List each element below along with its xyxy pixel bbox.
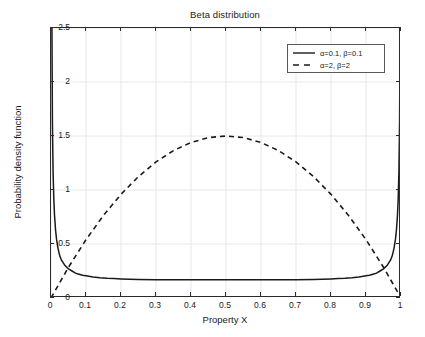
x-tick-label: 0	[30, 300, 70, 310]
x-tick-mark	[330, 292, 331, 296]
x-tick-mark-top	[330, 27, 331, 31]
x-tick-label: 0.7	[275, 300, 315, 310]
y-tick-mark	[50, 81, 54, 82]
x-tick-label: 0.8	[310, 300, 350, 310]
legend-line-dashed-icon	[292, 60, 316, 70]
x-tick-mark	[295, 292, 296, 296]
x-tick-mark-top	[50, 27, 51, 31]
y-tick-mark	[50, 243, 54, 244]
y-tick-mark	[50, 135, 54, 136]
chart-title: Beta distribution	[50, 9, 400, 20]
x-tick-mark-top	[295, 27, 296, 31]
y-tick-mark	[50, 297, 54, 298]
y-tick-mark-right	[396, 243, 400, 244]
x-tick-mark-top	[120, 27, 121, 31]
x-tick-mark	[120, 292, 121, 296]
x-tick-mark-top	[85, 27, 86, 31]
legend-item-1[interactable]: α=2, β=2	[288, 59, 384, 71]
legend-label-1: α=2, β=2	[316, 61, 350, 70]
y-axis-label: Probability density function	[12, 27, 26, 297]
x-tick-label: 0.4	[170, 300, 210, 310]
y-tick-mark-right	[396, 135, 400, 136]
x-tick-mark-top	[365, 27, 366, 31]
x-tick-mark	[190, 292, 191, 296]
legend-label-0: α=0.1, β=0.1	[316, 49, 362, 58]
y-tick-mark	[50, 189, 54, 190]
y-tick-mark-right	[396, 297, 400, 298]
series-curve-1	[51, 136, 400, 297]
x-tick-label: 0.5	[205, 300, 245, 310]
x-axis-label: Property X	[50, 314, 400, 325]
x-tick-mark	[155, 292, 156, 296]
legend-line-solid-icon	[292, 48, 316, 58]
x-tick-mark	[260, 292, 261, 296]
y-tick-mark-right	[396, 81, 400, 82]
legend-item-0[interactable]: α=0.1, β=0.1	[288, 47, 384, 59]
x-tick-mark-top	[225, 27, 226, 31]
x-tick-mark	[400, 292, 401, 296]
beta-distribution-chart: Beta distribution 00.511.522.500.10.20.3…	[0, 0, 425, 337]
x-tick-label: 0.6	[240, 300, 280, 310]
x-tick-mark-top	[190, 27, 191, 31]
x-tick-mark-top	[260, 27, 261, 31]
x-tick-label: 0.1	[65, 300, 105, 310]
x-tick-label: 0.9	[345, 300, 385, 310]
x-tick-label: 0.3	[135, 300, 175, 310]
x-tick-mark	[225, 292, 226, 296]
x-tick-label: 1	[380, 300, 420, 310]
y-tick-mark-right	[396, 189, 400, 190]
x-tick-mark	[50, 292, 51, 296]
x-tick-mark-top	[155, 27, 156, 31]
x-tick-mark-top	[400, 27, 401, 31]
legend[interactable]: α=0.1, β=0.1 α=2, β=2	[287, 44, 385, 73]
x-tick-mark	[85, 292, 86, 296]
x-tick-mark	[365, 292, 366, 296]
x-tick-label: 0.2	[100, 300, 140, 310]
